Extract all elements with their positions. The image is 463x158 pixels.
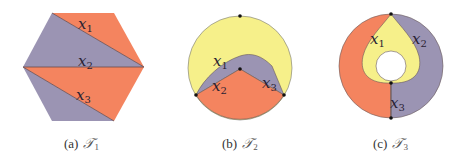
panel-c-annulus: x1 x2 x3 (c)𝒯3 — [339, 12, 443, 152]
vertex-dot-right — [282, 93, 286, 97]
caption-b: (b)𝒯2 — [222, 136, 258, 152]
caption-c: (c)𝒯3 — [373, 136, 408, 152]
figure-canvas: x1 x2 x3 (a)𝒯1 x1 x2 x3 (b)𝒯2 — [0, 0, 463, 158]
vertex-dot-center — [238, 67, 242, 71]
panel-b-disk: x1 x2 x3 (b)𝒯2 — [188, 14, 292, 152]
vertex-dot-bottom — [389, 116, 393, 120]
annulus-hole — [376, 51, 406, 81]
vertex-dot-left — [194, 93, 198, 97]
panel-a-hexagon: x1 x2 x3 (a)𝒯1 — [23, 13, 144, 152]
caption-a: (a)𝒯1 — [64, 136, 99, 152]
vertex-dot-top — [389, 12, 393, 16]
vertex-dot-top — [238, 14, 242, 18]
vertex-dot-middle — [389, 81, 393, 85]
